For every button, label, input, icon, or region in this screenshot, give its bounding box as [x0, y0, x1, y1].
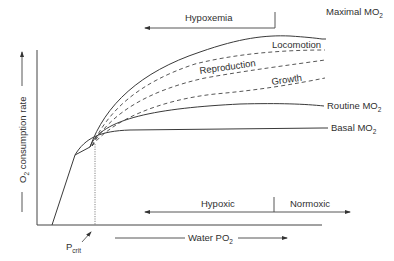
basal-curve [75, 128, 322, 155]
locomotion-label: Locomotion [272, 39, 321, 50]
maximal-label: Maximal MO2 [326, 6, 383, 19]
normoxic-label: Normoxic [290, 198, 330, 209]
growth-curve [92, 78, 325, 146]
y-axis-label-group: O2 consumption rate [17, 52, 30, 212]
hypoxemia-label: Hypoxemia [185, 12, 233, 23]
basal-label: Basal MO2 [331, 122, 377, 135]
growth-label: Growth [271, 72, 303, 87]
oxygen-consumption-diagram: O2 consumption rate Pcrit Basal MO2 Rout… [0, 0, 394, 261]
water-po2-label: Water PO2 [188, 232, 233, 245]
reproduction-label: Reproduction [199, 57, 256, 76]
pcrit-label: Pcrit [66, 241, 81, 254]
y-axis-label: O2 consumption rate [17, 96, 30, 183]
shared-rising-line [52, 147, 90, 225]
hypoxic-label: Hypoxic [201, 198, 235, 209]
routine-label: Routine MO2 [327, 100, 382, 113]
maximal-curve-top [200, 37, 270, 52]
pcrit-arrow [82, 232, 91, 242]
